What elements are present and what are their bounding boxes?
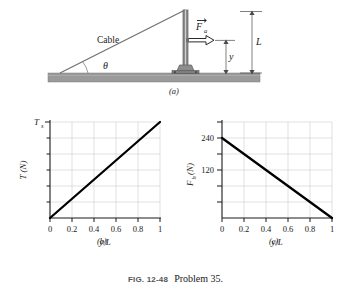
chart-b-xtick-1: 0.2: [67, 224, 78, 234]
length-L-label: L: [255, 36, 262, 47]
chart-b-x-ticks: [50, 218, 160, 222]
apparatus-svg: Cable θ F a y L: [0, 0, 351, 100]
cable-label: Cable: [97, 35, 119, 45]
chart-b-y-ticks: [45, 122, 50, 202]
force-label: F: [195, 21, 203, 32]
chart-b-xtick-0: 0: [48, 224, 52, 234]
panel-a-label: (a): [169, 86, 179, 96]
chart-c-xtick-0: 0: [220, 224, 224, 234]
force-subscript-label: a: [204, 27, 207, 34]
figure-caption-text: Problem 35.: [174, 273, 223, 284]
figure-caption: FIG. 12-48Problem 35.: [0, 268, 351, 286]
figure-number: FIG. 12-48: [128, 275, 168, 284]
chart-c-xtick-5: 1: [330, 224, 334, 234]
position-y-label: y: [228, 51, 234, 62]
chart-panel-b: 0 0.2 0.4 0.6 0.8 1 T s y/L T (N) (b): [8, 110, 173, 250]
chart-c-ylabel-units: (N): [185, 163, 195, 175]
chart-c-x-ticks: [222, 218, 332, 222]
chart-c-ytick-240: 240: [201, 133, 214, 143]
chart-b-ytick-top: T: [34, 117, 40, 127]
chart-b-svg: 0 0.2 0.4 0.6 0.8 1 T s y/L T (N): [8, 110, 173, 250]
chart-c-y-ticks: [217, 122, 222, 202]
angle-arc: [83, 62, 89, 74]
panel-b-label: (b): [97, 236, 107, 246]
base-bolt-left: [174, 71, 176, 73]
chart-b-xtick-4: 0.8: [133, 224, 144, 234]
dimension-y: [223, 40, 228, 75]
chart-c-ylabel-subscript: h: [190, 176, 197, 179]
chart-c-svg: 0 0.2 0.4 0.6 0.8 1 240 120 y/L F h (N): [180, 110, 345, 250]
chart-b-xtick-3: 0.6: [111, 224, 122, 234]
chart-c-gridlines: [222, 122, 332, 218]
panel-c-label: (c): [269, 236, 278, 246]
apparatus-diagram-panel: Cable θ F a y L (a): [0, 0, 351, 100]
applied-force-arrow: [188, 36, 214, 45]
chart-b-ylabel: T (N): [18, 160, 28, 179]
chart-c-ylabel-main: F: [185, 180, 195, 187]
chart-c-xtick-3: 0.6: [283, 224, 294, 234]
angle-theta-label: θ: [103, 60, 108, 71]
force-attachment: [186, 38, 189, 42]
ground-slab: [48, 73, 260, 82]
chart-c-xtick-4: 0.8: [305, 224, 316, 234]
chart-c-ytick-120: 120: [201, 165, 214, 175]
chart-c-xtick-2: 0.4: [261, 224, 272, 234]
chart-c-ylabel-group: F h (N): [185, 163, 197, 187]
chart-c-data-line: [222, 138, 332, 218]
chart-b-xtick-2: 0.4: [89, 224, 100, 234]
chart-b-ytick-top-subscript: s: [41, 122, 44, 129]
base-bolt-right: [195, 71, 197, 73]
cable-line: [60, 10, 185, 73]
dimension-L: [215, 11, 262, 75]
chart-panel-c: 0 0.2 0.4 0.6 0.8 1 240 120 y/L F h (N) …: [180, 110, 345, 250]
chart-b-xtick-5: 1: [158, 224, 162, 234]
chart-c-xtick-1: 0.2: [239, 224, 250, 234]
